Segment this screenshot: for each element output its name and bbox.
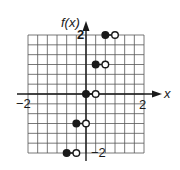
- x-min-tick-label: −2: [16, 96, 31, 111]
- x-axis-label: x: [163, 86, 171, 101]
- open-endpoint-icon: [73, 150, 80, 157]
- axes: [17, 21, 162, 161]
- x-axis-arrow-icon: [152, 91, 162, 98]
- y-max-tick-label: 2: [77, 27, 84, 42]
- y-min-tick-label: −2: [91, 145, 106, 160]
- closed-endpoint-icon: [83, 91, 90, 98]
- open-endpoint-icon: [112, 32, 119, 39]
- closed-endpoint-icon: [73, 120, 80, 127]
- closed-endpoint-icon: [92, 61, 99, 68]
- closed-endpoint-icon: [102, 32, 109, 39]
- step-function-graph: f(x) x −2 2 2 −2: [0, 0, 180, 170]
- open-endpoint-icon: [92, 91, 99, 98]
- x-max-tick-label: 2: [139, 97, 146, 112]
- open-endpoint-icon: [83, 120, 90, 127]
- open-endpoint-icon: [102, 61, 109, 68]
- closed-endpoint-icon: [63, 150, 70, 157]
